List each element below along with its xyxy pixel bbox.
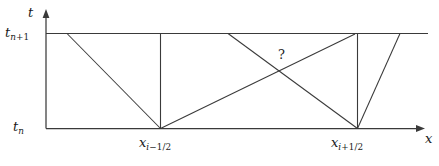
level-lines-group (46, 34, 428, 129)
tick-label-subscript: i−1/2 (146, 142, 171, 152)
subscript-index: n (18, 126, 24, 136)
subscript-number: 1/2 (349, 142, 364, 152)
subscript-operator: + (341, 142, 349, 152)
tick-label-x-i-plus-half: xi+1/2 (331, 136, 363, 149)
tick-label-x-i-minus-half: xi−1/2 (139, 136, 171, 149)
characteristic-right-fan-inner (228, 34, 358, 129)
tick-label-subscript: n (18, 126, 24, 136)
t-axis-label: t (28, 6, 33, 19)
characteristic-lines-group (67, 34, 400, 129)
subscript-number: 1 (24, 32, 30, 42)
tick-label-subscript: n+1 (10, 32, 29, 42)
axes-group (46, 14, 418, 129)
diagram-svg (0, 0, 439, 166)
x-axis-arrow-icon (416, 125, 425, 132)
characteristic-left-fan-inner (161, 34, 356, 129)
t-axis-arrow-icon (43, 9, 50, 18)
subscript-number: 1/2 (157, 142, 172, 152)
x-axis-label: x (425, 132, 432, 145)
tick-label-subscript: i+1/2 (338, 142, 363, 152)
unknown-region-question-mark: ? (278, 48, 285, 61)
characteristic-right-fan-outer (358, 34, 401, 129)
subscript-operator: − (149, 142, 157, 152)
subscript-operator: + (16, 32, 24, 42)
characteristic-left-fan-outer (67, 34, 161, 129)
tick-label-t-n: tn (13, 120, 24, 133)
tick-label-t-n-plus-1: tn+1 (5, 26, 29, 39)
figure-canvas: t x tn+1 tn xi−1/2 xi+1/2 ? (0, 0, 439, 166)
